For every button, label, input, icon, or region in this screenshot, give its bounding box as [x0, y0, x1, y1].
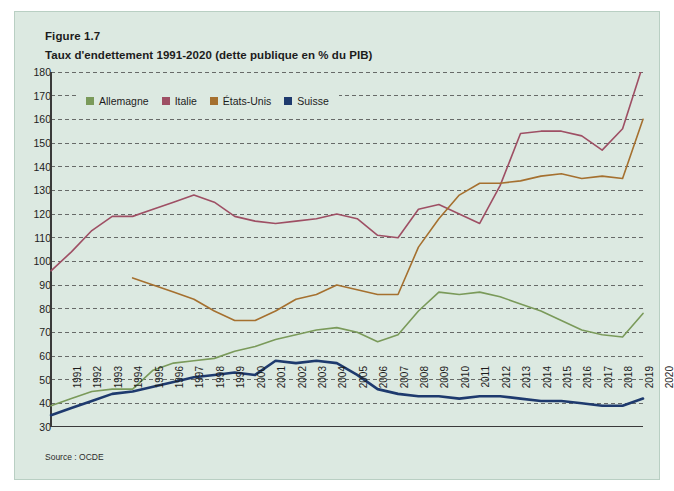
x-axis-tick-label: 1993: [113, 366, 124, 388]
x-axis-tick-label: 1997: [194, 366, 205, 388]
legend-item: États-Unis: [210, 95, 271, 107]
x-axis-tick-label: 2004: [337, 366, 348, 388]
x-axis-tick-label: 2008: [419, 366, 430, 388]
x-axis-tick-label: 2005: [358, 366, 369, 388]
legend-item: Allemagne: [86, 95, 149, 107]
x-axis-tick-label: 2013: [521, 366, 532, 388]
x-axis-labels: 1991199219931994199519961997199819992000…: [41, 362, 649, 422]
page-root: Figure 1.7 Taux d'endettement 1991-2020 …: [0, 0, 674, 491]
legend-label: Italie: [175, 95, 197, 107]
x-axis-tick-label: 2016: [582, 366, 593, 388]
legend-swatch-icon: [284, 97, 292, 105]
x-axis-tick-label: 2007: [399, 366, 410, 388]
chart-legend: AllemagneItalieÉtats-UnisSuisse: [78, 90, 339, 112]
legend-swatch-icon: [86, 97, 94, 105]
legend-item: Italie: [162, 95, 197, 107]
x-axis-tick-label: 1995: [154, 366, 165, 388]
x-axis-tick-label: 2001: [276, 366, 287, 388]
x-axis-tick-label: 1992: [92, 366, 103, 388]
legend-item: Suisse: [284, 95, 329, 107]
x-axis-tick-label: 2009: [439, 366, 450, 388]
x-axis-tick-label: 2017: [603, 366, 614, 388]
x-axis-tick-label: 2020: [664, 366, 674, 388]
x-axis-tick-label: 2011: [480, 366, 491, 388]
x-axis-tick-label: 1996: [174, 366, 185, 388]
figure-number: Figure 1.7: [45, 30, 100, 42]
x-axis-tick-label: 2000: [256, 366, 267, 388]
figure-panel: Figure 1.7 Taux d'endettement 1991-2020 …: [14, 11, 660, 480]
x-axis-tick-label: 2002: [297, 366, 308, 388]
figure-title: Taux d'endettement 1991-2020 (dette publ…: [45, 49, 372, 61]
x-axis-tick-label: 1999: [235, 366, 246, 388]
x-axis-tick-label: 1991: [72, 366, 83, 388]
x-axis-tick-label: 2015: [562, 366, 573, 388]
x-axis-tick-label: 2012: [501, 366, 512, 388]
x-axis-tick-label: 1994: [133, 366, 144, 388]
legend-label: Allemagne: [99, 95, 149, 107]
source-note: Source : OCDE: [45, 452, 104, 462]
legend-swatch-icon: [162, 97, 170, 105]
legend-swatch-icon: [210, 97, 218, 105]
x-axis-tick-label: 1998: [215, 366, 226, 388]
x-axis-tick-label: 2006: [378, 366, 389, 388]
x-axis-tick-label: 2010: [460, 366, 471, 388]
legend-label: États-Unis: [223, 95, 271, 107]
x-axis-tick-label: 2014: [542, 366, 553, 388]
legend-label: Suisse: [297, 95, 329, 107]
x-axis-tick-label: 2003: [317, 366, 328, 388]
x-axis-tick-label: 2019: [644, 366, 655, 388]
x-axis-tick-label: 2018: [623, 366, 634, 388]
